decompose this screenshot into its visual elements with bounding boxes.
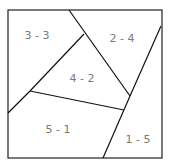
region-label-2-4: 2 - 4 — [110, 32, 135, 45]
region-label-4-2: 4 - 2 — [70, 72, 95, 85]
partition-diagram: 3 - 3 2 - 4 4 - 2 5 - 1 1 - 5 — [0, 0, 169, 167]
region-label-3-3: 3 - 3 — [25, 29, 50, 42]
region-label-1-5: 1 - 5 — [126, 133, 151, 146]
region-label-5-1: 5 - 1 — [46, 123, 71, 136]
